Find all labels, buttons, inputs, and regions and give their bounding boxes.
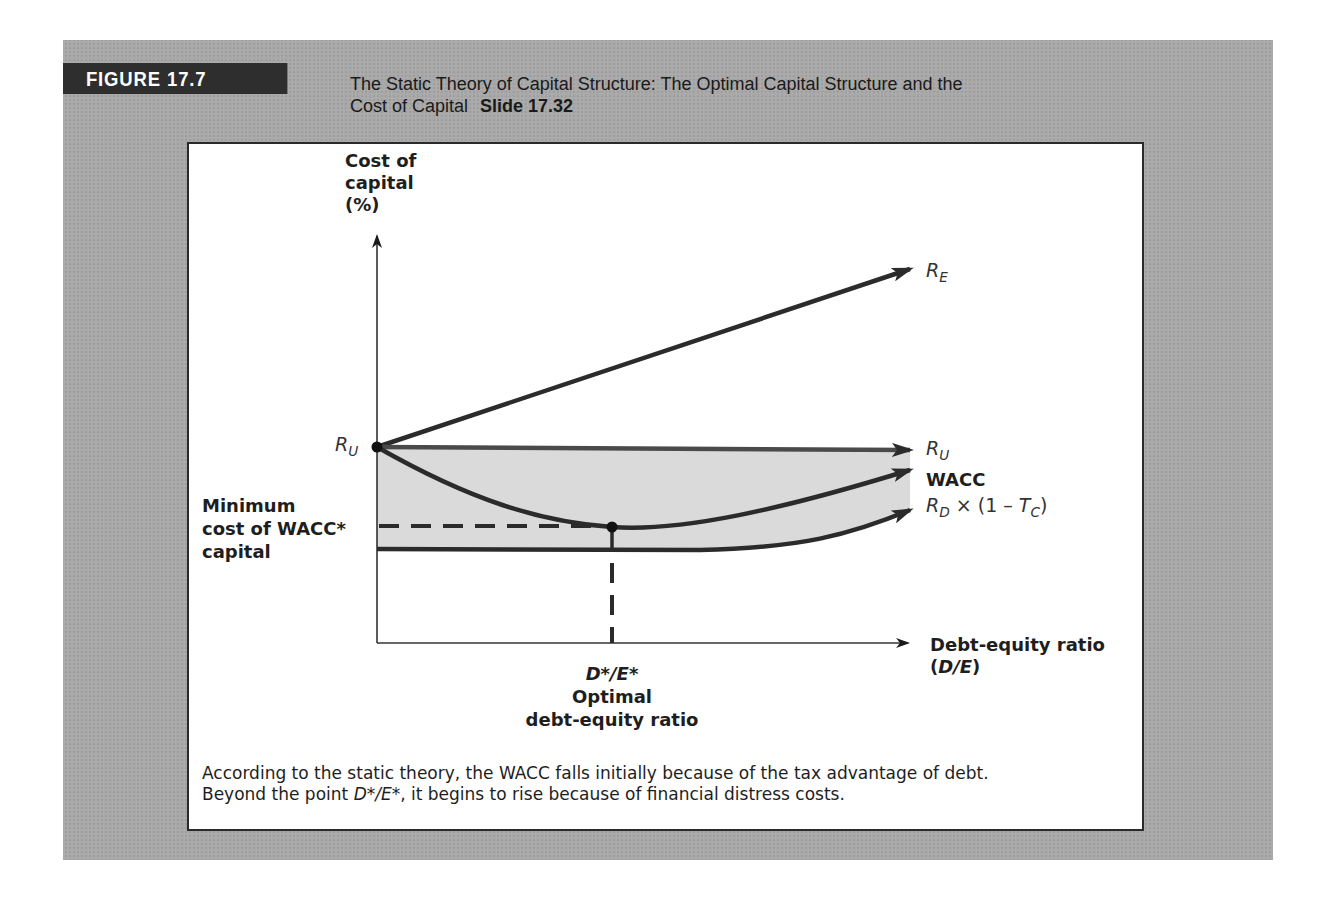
- wacc-min-point: [607, 522, 618, 533]
- caption-line1: According to the static theory, the WACC…: [202, 763, 1142, 784]
- y-axis-title-line2: capital: [345, 172, 416, 194]
- min-cost-line3: capital: [202, 540, 346, 563]
- optimal-de-symbol: D*/E*: [512, 662, 712, 685]
- rd-label-end: ): [1040, 494, 1047, 516]
- x-axis-paren-open: (: [930, 656, 938, 677]
- ru-line: [377, 447, 910, 450]
- ru-label: RU: [926, 437, 949, 463]
- ru-label-sub: U: [939, 447, 949, 463]
- x-axis-title-line1: Debt-equity ratio: [930, 634, 1105, 656]
- optimal-de-label: D*/E* Optimal debt-equity ratio: [512, 662, 712, 731]
- x-axis-paren-close: ): [972, 656, 980, 677]
- optimal-line2: debt-equity ratio: [512, 708, 712, 731]
- optimal-line1: Optimal: [512, 685, 712, 708]
- ru-label-main: R: [926, 437, 939, 459]
- re-line: [377, 269, 910, 447]
- figure-caption: According to the static theory, the WACC…: [202, 763, 1142, 805]
- caption-line2-pre: Beyond the point: [202, 784, 354, 804]
- min-cost-line2: cost of: [202, 518, 271, 539]
- min-cost-line1: Minimum: [202, 494, 346, 517]
- rd-label-mid: × (1 –: [950, 494, 1019, 516]
- rd-label-sub: D: [939, 504, 950, 520]
- ru-axis-label-sub: U: [348, 443, 358, 459]
- wacc-label: WACC: [926, 469, 985, 490]
- re-label: RE: [926, 259, 948, 285]
- y-axis-title-line1: Cost of: [345, 150, 416, 172]
- x-axis-de: D/E: [938, 656, 972, 677]
- x-axis-title: Debt-equity ratio (D/E): [930, 634, 1105, 678]
- rd-label-t: T: [1019, 494, 1031, 516]
- min-cost-label: Minimum cost of WACC* capital: [202, 494, 346, 563]
- wacc-star-label: WACC*: [277, 518, 346, 539]
- rd-label: RD × (1 – TC): [926, 494, 1047, 520]
- ru-axis-label-main: R: [335, 433, 348, 455]
- ru-point: [372, 442, 383, 453]
- re-label-main: R: [926, 259, 939, 281]
- caption-line2-de: D*/E*: [354, 784, 401, 804]
- y-axis-title: Cost of capital (%): [345, 150, 416, 216]
- caption-line2-post: , it begins to rise because of financial…: [400, 784, 845, 804]
- ru-axis-label: RU: [335, 433, 358, 459]
- y-axis-title-line3: (%): [345, 194, 416, 216]
- rd-label-tsub: C: [1030, 504, 1040, 520]
- rd-label-main: R: [926, 494, 939, 516]
- re-label-sub: E: [939, 269, 948, 285]
